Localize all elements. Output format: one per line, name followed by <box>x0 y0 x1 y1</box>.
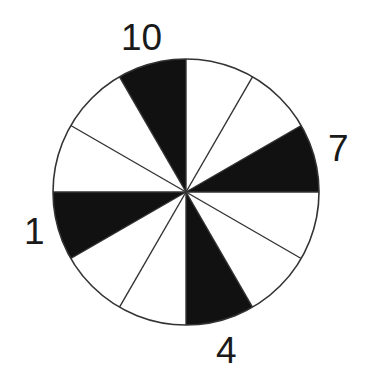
label-top: 10 <box>121 17 162 58</box>
label-bottom: 4 <box>216 330 237 371</box>
sector-wheel-diagram: 10 7 4 1 <box>0 0 377 371</box>
label-right: 7 <box>328 128 349 169</box>
label-left: 1 <box>24 211 45 252</box>
